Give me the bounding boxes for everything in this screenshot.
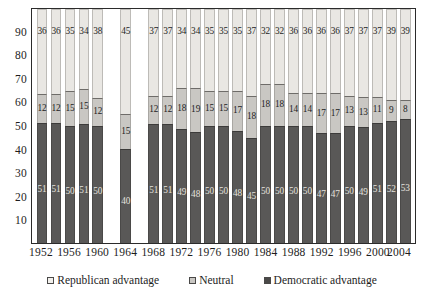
stacked-bar[interactable]: 39853: [400, 9, 411, 243]
stacked-bar[interactable]: 361450: [302, 9, 313, 243]
neutral-segment[interactable]: 17: [316, 93, 327, 133]
republican-segment[interactable]: 37: [246, 9, 257, 96]
neutral-segment[interactable]: 15: [204, 91, 215, 126]
neutral-segment[interactable]: 15: [218, 91, 229, 126]
stacked-bar[interactable]: 361251: [51, 9, 62, 243]
republican-segment[interactable]: 37: [148, 9, 159, 96]
republican-segment[interactable]: 35: [218, 9, 229, 91]
democratic-segment[interactable]: 50: [204, 126, 215, 243]
democratic-segment[interactable]: 47: [330, 133, 341, 243]
stacked-bar[interactable]: 361251: [37, 9, 48, 243]
democratic-segment[interactable]: 51: [372, 123, 383, 243]
neutral-segment[interactable]: 18: [274, 84, 285, 126]
democratic-segment[interactable]: 50: [92, 126, 103, 243]
stacked-bar[interactable]: 39952: [386, 9, 397, 243]
democratic-segment[interactable]: 50: [302, 126, 313, 243]
republican-segment[interactable]: 34: [79, 9, 90, 89]
neutral-segment[interactable]: 17: [330, 93, 341, 133]
legend-item[interactable]: Republican advantage: [47, 274, 159, 286]
neutral-segment[interactable]: 11: [372, 97, 383, 123]
republican-segment[interactable]: 38: [92, 9, 103, 98]
stacked-bar[interactable]: 371251: [148, 9, 159, 243]
democratic-segment[interactable]: 50: [288, 126, 299, 243]
republican-segment[interactable]: 35: [204, 9, 215, 91]
republican-segment[interactable]: 34: [176, 9, 187, 88]
democratic-segment[interactable]: 47: [316, 133, 327, 243]
democratic-segment[interactable]: 49: [176, 129, 187, 243]
republican-segment[interactable]: 32: [260, 9, 271, 84]
legend-item[interactable]: Neutral: [189, 274, 233, 286]
republican-segment[interactable]: 36: [316, 9, 327, 93]
democratic-segment[interactable]: 51: [37, 123, 48, 243]
stacked-bar[interactable]: 321850: [274, 9, 285, 243]
republican-segment[interactable]: 37: [344, 9, 355, 96]
republican-segment[interactable]: 36: [37, 9, 48, 94]
neutral-segment[interactable]: 15: [120, 114, 131, 149]
stacked-bar[interactable]: 361747: [330, 9, 341, 243]
democratic-segment[interactable]: 50: [344, 126, 355, 243]
stacked-bar[interactable]: 451540: [120, 9, 131, 243]
republican-segment[interactable]: 45: [120, 9, 131, 114]
stacked-bar[interactable]: 351748: [232, 9, 243, 243]
neutral-segment[interactable]: 8: [400, 100, 411, 119]
republican-segment[interactable]: 35: [65, 9, 76, 91]
republican-segment[interactable]: 36: [330, 9, 341, 93]
stacked-bar[interactable]: 371151: [372, 9, 383, 243]
stacked-bar[interactable]: 371349: [358, 9, 369, 243]
neutral-segment[interactable]: 15: [65, 91, 76, 126]
republican-segment[interactable]: 37: [162, 9, 173, 96]
republican-segment[interactable]: 34: [190, 9, 201, 88]
republican-segment[interactable]: 36: [302, 9, 313, 93]
neutral-segment[interactable]: 14: [288, 93, 299, 126]
neutral-segment[interactable]: 18: [260, 84, 271, 126]
democratic-segment[interactable]: 49: [358, 127, 369, 243]
neutral-segment[interactable]: 9: [386, 100, 397, 121]
stacked-bar[interactable]: 361450: [288, 9, 299, 243]
democratic-segment[interactable]: 48: [232, 131, 243, 243]
stacked-bar[interactable]: 341948: [190, 9, 201, 243]
democratic-segment[interactable]: 50: [260, 126, 271, 243]
neutral-segment[interactable]: 14: [302, 93, 313, 126]
neutral-segment[interactable]: 19: [190, 88, 201, 132]
democratic-segment[interactable]: 50: [65, 126, 76, 243]
democratic-segment[interactable]: 50: [218, 126, 229, 243]
neutral-segment[interactable]: 12: [37, 94, 48, 122]
republican-segment[interactable]: 35: [232, 9, 243, 91]
republican-segment[interactable]: 36: [288, 9, 299, 93]
republican-segment[interactable]: 39: [400, 9, 411, 100]
neutral-segment[interactable]: 18: [246, 96, 257, 138]
neutral-segment[interactable]: 18: [176, 88, 187, 130]
stacked-bar[interactable]: 351550: [65, 9, 76, 243]
republican-segment[interactable]: 37: [372, 9, 383, 96]
democratic-segment[interactable]: 51: [148, 124, 159, 243]
stacked-bar[interactable]: 371350: [344, 9, 355, 243]
stacked-bar[interactable]: 321850: [260, 9, 271, 243]
neutral-segment[interactable]: 12: [148, 96, 159, 124]
republican-segment[interactable]: 32: [274, 9, 285, 84]
stacked-bar[interactable]: 341551: [79, 9, 90, 243]
stacked-bar[interactable]: 361747: [316, 9, 327, 243]
democratic-segment[interactable]: 53: [400, 119, 411, 243]
legend-item[interactable]: Democratic advantage: [264, 274, 377, 286]
democratic-segment[interactable]: 52: [386, 121, 397, 243]
stacked-bar[interactable]: 371845: [246, 9, 257, 243]
democratic-segment[interactable]: 48: [190, 132, 201, 243]
democratic-segment[interactable]: 50: [274, 126, 285, 243]
stacked-bar[interactable]: 351550: [218, 9, 229, 243]
stacked-bar[interactable]: 351550: [204, 9, 215, 243]
neutral-segment[interactable]: 12: [162, 96, 173, 124]
democratic-segment[interactable]: 40: [120, 149, 131, 243]
republican-segment[interactable]: 39: [386, 9, 397, 100]
democratic-segment[interactable]: 51: [51, 123, 62, 243]
stacked-bar[interactable]: 341849: [176, 9, 187, 243]
democratic-segment[interactable]: 51: [79, 124, 90, 243]
neutral-segment[interactable]: 12: [92, 98, 103, 126]
stacked-bar[interactable]: 381250: [92, 9, 103, 243]
republican-segment[interactable]: 37: [358, 9, 369, 96]
neutral-segment[interactable]: 12: [51, 94, 62, 122]
stacked-bar[interactable]: 371251: [162, 9, 173, 243]
democratic-segment[interactable]: 45: [246, 138, 257, 243]
neutral-segment[interactable]: 13: [344, 96, 355, 126]
neutral-segment[interactable]: 15: [79, 89, 90, 124]
neutral-segment[interactable]: 13: [358, 97, 369, 128]
